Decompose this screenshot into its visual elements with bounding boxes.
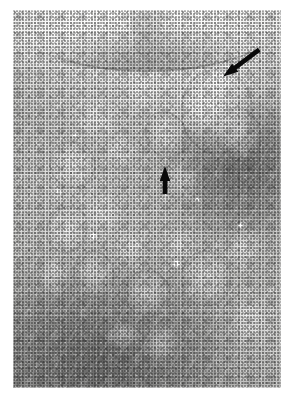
micrograph-figure — [0, 0, 294, 400]
arrow-center — [157, 162, 173, 194]
arrow-glyph — [160, 166, 170, 194]
